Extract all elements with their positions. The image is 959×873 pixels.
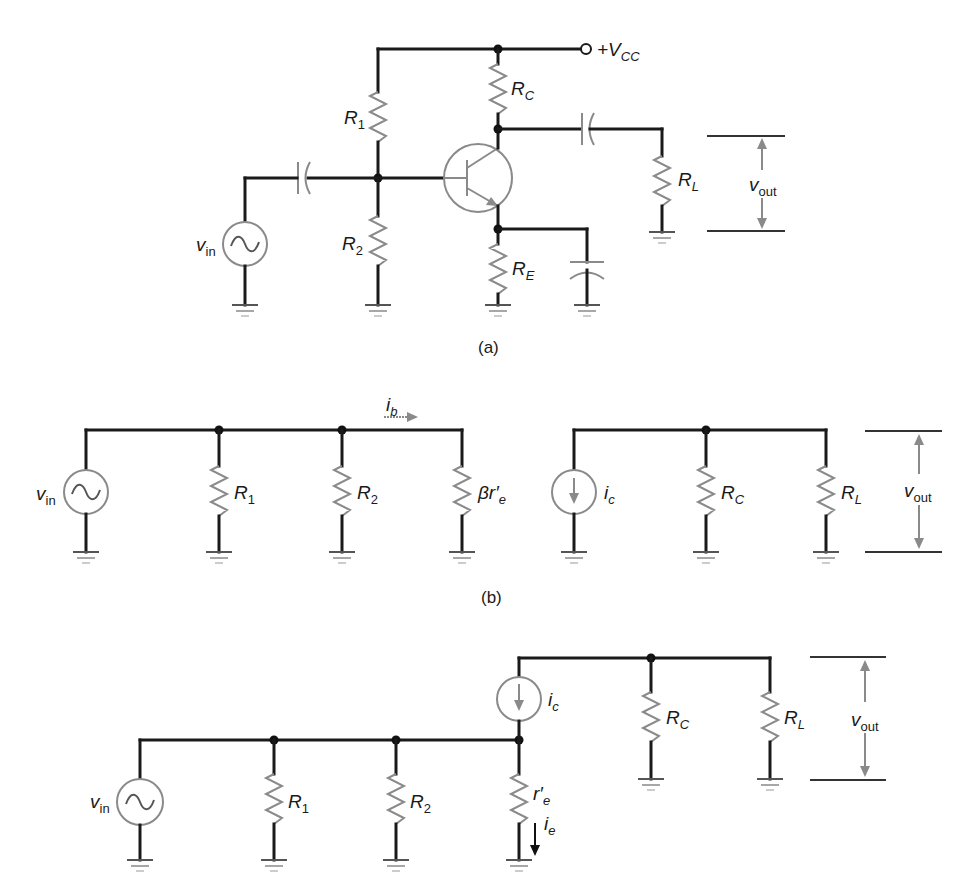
- part-b-ac-equivalent: vin R1 R2 βr′e ib ic RC: [36, 394, 942, 607]
- r2-label: R2: [342, 233, 363, 258]
- r1-label: R1: [234, 482, 255, 507]
- ie-label: ie: [544, 813, 555, 838]
- r1-label: R1: [288, 791, 309, 816]
- ie-arrow-icon: [530, 845, 540, 856]
- vin-label: vin: [196, 234, 216, 259]
- rl-label: RL: [678, 169, 699, 194]
- rc-label: RC: [666, 707, 690, 732]
- r2-label: R2: [410, 791, 431, 816]
- rl-label: RL: [784, 707, 805, 732]
- r1-label: R1: [344, 107, 365, 132]
- vin-label: vin: [90, 791, 110, 816]
- part-c-ac-equivalent: vin R1 R2 r′e ie ic RC: [90, 654, 886, 872]
- rc-label: RC: [721, 482, 745, 507]
- vin-label: vin: [36, 483, 56, 508]
- caption-a: (a): [478, 338, 499, 357]
- caption-b: (b): [481, 588, 502, 607]
- vcc-label: +VCC: [597, 39, 640, 64]
- re-label: RE: [512, 258, 535, 283]
- vcc-terminal: [581, 44, 591, 54]
- r2-label: R2: [357, 482, 378, 507]
- part-a-amplifier-schematic: +VCC R1 vin R2: [196, 39, 785, 357]
- ib-arrow-icon: [407, 412, 418, 422]
- ic-label: ic: [548, 689, 559, 714]
- vout-label: vout: [904, 480, 932, 505]
- rc-label: RC: [511, 78, 535, 103]
- rl-label: RL: [841, 482, 862, 507]
- beta-re-label: βr′e: [477, 482, 506, 507]
- vout-label: vout: [851, 709, 879, 734]
- vout-label: vout: [749, 174, 777, 199]
- ib-label: ib: [386, 394, 397, 419]
- re-prime-label: r′e: [533, 783, 550, 808]
- ic-label: ic: [604, 482, 615, 507]
- circuit-diagram: +VCC R1 vin R2: [0, 0, 959, 873]
